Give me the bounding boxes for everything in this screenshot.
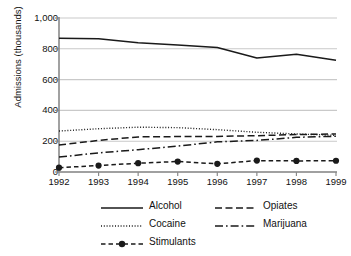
legend-label: Cocaine bbox=[144, 218, 186, 229]
data-point-stimulants bbox=[135, 160, 141, 166]
x-tick-label: 1993 bbox=[79, 177, 119, 187]
legend-line-icon bbox=[100, 218, 144, 230]
x-tick-label: 1997 bbox=[237, 177, 277, 187]
data-point-stimulants bbox=[56, 165, 62, 171]
legend-item-alcohol[interactable]: Alcohol bbox=[100, 198, 182, 213]
legend-item-cocaine[interactable]: Cocaine bbox=[100, 216, 186, 231]
legend-line-icon bbox=[100, 236, 144, 248]
legend-label: Marijuana bbox=[258, 218, 307, 229]
legend-label: Stimulants bbox=[144, 236, 196, 247]
x-axis-tick-labels: 19921993199419951996199719981999 bbox=[0, 177, 351, 191]
data-point-stimulants bbox=[95, 162, 101, 168]
legend-line-icon bbox=[100, 200, 144, 212]
legend-swatch-marker bbox=[119, 240, 125, 246]
legend-line-icon bbox=[214, 200, 258, 212]
legend-item-opiates[interactable]: Opiates bbox=[214, 198, 297, 213]
x-tick-label: 1994 bbox=[118, 177, 158, 187]
x-tick-label: 1995 bbox=[158, 177, 198, 187]
x-tick-label: 1998 bbox=[276, 177, 316, 187]
legend-item-stimulants[interactable]: Stimulants bbox=[100, 234, 196, 249]
legend-item-marijuana[interactable]: Marijuana bbox=[214, 216, 307, 231]
line-chart: Admissions (thousands) 02004006008001,00… bbox=[0, 0, 351, 256]
series-line-opiates bbox=[59, 134, 336, 145]
data-point-stimulants bbox=[175, 158, 181, 164]
legend-label: Opiates bbox=[258, 200, 297, 211]
series-line-marijuana bbox=[59, 136, 336, 157]
data-point-stimulants bbox=[214, 161, 220, 167]
data-point-stimulants bbox=[254, 158, 260, 164]
legend-label: Alcohol bbox=[144, 200, 182, 211]
x-tick-label: 1992 bbox=[39, 177, 79, 187]
chart-legend: AlcoholOpiatesCocaineMarijuanaStimulants bbox=[0, 196, 351, 252]
data-point-stimulants bbox=[333, 158, 339, 164]
x-tick-label: 1999 bbox=[316, 177, 351, 187]
data-point-stimulants bbox=[293, 158, 299, 164]
x-tick-label: 1996 bbox=[197, 177, 237, 187]
legend-line-icon bbox=[214, 218, 258, 230]
